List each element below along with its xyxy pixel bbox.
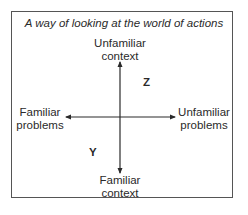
axes-arrows	[0, 0, 248, 215]
